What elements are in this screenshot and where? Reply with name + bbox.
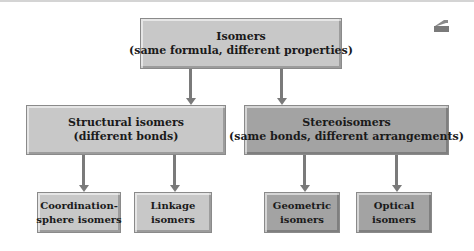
arrow-structural-to-linkage xyxy=(173,155,176,186)
stereo-title: Stereoisomers xyxy=(302,116,391,130)
node-stereoisomers: Stereoisomers (same bonds, different arr… xyxy=(244,105,449,155)
geometric-line2: isomers xyxy=(280,213,324,227)
arrow-root-to-structural xyxy=(189,69,192,99)
root-title: Isomers xyxy=(216,30,265,44)
optical-line2: isomers xyxy=(372,213,416,227)
node-optical-isomers: Optical isomers xyxy=(356,192,432,233)
stereo-subtitle: (same bonds, different arrangements) xyxy=(229,130,464,144)
linkage-line2: isomers xyxy=(151,213,195,227)
node-linkage-isomers: Linkage isomers xyxy=(134,192,212,233)
geometric-line1: Geometric xyxy=(273,199,331,213)
structural-subtitle: (different bonds) xyxy=(74,130,179,144)
top-divider xyxy=(0,0,474,2)
arrow-structural-to-coordination xyxy=(82,155,85,186)
coordination-line1: Coordination- xyxy=(40,199,118,213)
node-geometric-isomers: Geometric isomers xyxy=(264,192,340,233)
home-icon[interactable] xyxy=(432,18,452,34)
node-coordination-sphere-isomers: Coordination- sphere isomers xyxy=(37,192,121,233)
arrow-root-to-stereo xyxy=(280,69,283,99)
arrow-stereo-to-geometric xyxy=(303,155,306,186)
structural-title: Structural isomers xyxy=(68,116,184,130)
root-node-isomers: Isomers (same formula, different propert… xyxy=(140,18,342,69)
linkage-line1: Linkage xyxy=(151,199,196,213)
arrow-stereo-to-optical xyxy=(395,155,398,186)
coordination-line2: sphere isomers xyxy=(36,213,121,227)
node-structural-isomers: Structural isomers (different bonds) xyxy=(26,105,226,155)
optical-line1: Optical xyxy=(374,199,415,213)
root-subtitle: (same formula, different properties) xyxy=(129,44,353,58)
